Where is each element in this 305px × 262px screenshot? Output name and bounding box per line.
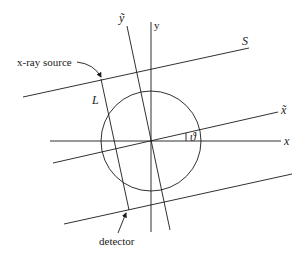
y-tilde-axis-label: ỹ [118, 11, 125, 25]
detector-arrow [118, 213, 126, 233]
source-line-label: S [242, 34, 248, 48]
detector-label: detector [99, 235, 135, 247]
tomography-geometry-diagram: x y x̃ ỹ S L ϑ x-ray source detector [0, 0, 305, 262]
y-axis-label: y [154, 19, 160, 31]
y-tilde-axis-line [127, 26, 170, 230]
angle-label: ϑ [190, 130, 197, 144]
x-tilde-axis-label: x̃ [280, 103, 287, 117]
x-tilde-axis-line [53, 112, 278, 163]
xray-source-label: x-ray source [17, 56, 72, 68]
x-axis-label: x [283, 134, 290, 148]
detector-line [64, 174, 292, 224]
xray-source-arrow [77, 62, 101, 77]
ray-line-label: L [91, 93, 99, 107]
